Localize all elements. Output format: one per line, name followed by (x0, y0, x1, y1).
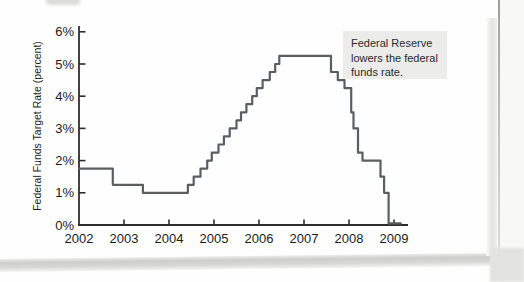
x-tick-label: 2003 (110, 231, 139, 246)
fed-funds-rate-line (79, 56, 401, 224)
x-tick-label: 2004 (155, 231, 184, 246)
x-tick-label: 2009 (380, 231, 409, 246)
textbook-figure: 0%1%2%3%4%5%6%20022003200420052006200720… (0, 0, 524, 282)
page-right-edge (498, 0, 500, 262)
page-right-shadow (486, 18, 497, 256)
y-tick-label: 2% (55, 153, 74, 168)
y-tick-label: 3% (55, 121, 74, 136)
x-tick-label: 2007 (290, 231, 319, 246)
y-tick-label: 5% (55, 57, 74, 72)
page-margin-right (500, 0, 524, 282)
y-tick-label: 4% (55, 89, 74, 104)
annotation-line-2: lowers the federal (351, 51, 441, 66)
x-tick-label: 2006 (245, 231, 274, 246)
x-tick-label: 2002 (65, 231, 94, 246)
page-corner-shadow (490, 248, 524, 282)
y-axis-title: Federal Funds Target Rate (percent) (31, 28, 43, 224)
y-tick-label: 6% (55, 24, 74, 39)
y-tick-label: 1% (55, 185, 74, 200)
annotation-line-1: Federal Reserve (351, 36, 441, 51)
annotation-line-3: funds rate. (351, 65, 441, 80)
annotation-box: Federal Reserve lowers the federal funds… (343, 31, 447, 79)
x-tick-label: 2005 (200, 231, 229, 246)
x-tick-label: 2008 (335, 231, 364, 246)
